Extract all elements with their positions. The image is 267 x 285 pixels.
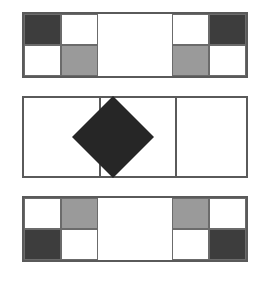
bottom-panel xyxy=(22,196,248,262)
cell-r1c5 xyxy=(209,229,246,260)
cell-r1c1 xyxy=(61,45,98,76)
cell-r0c0 xyxy=(24,198,61,229)
cell-r1c0 xyxy=(24,229,61,260)
cell-r0c1 xyxy=(61,14,98,45)
cell-r1c5 xyxy=(209,45,246,76)
cell-r1c4 xyxy=(172,45,209,76)
cell-r0c4 xyxy=(172,198,209,229)
center-diamond xyxy=(72,96,154,178)
cell-r1c0 xyxy=(24,45,61,76)
cell-r1c4 xyxy=(172,229,209,260)
column-separator-1 xyxy=(175,98,177,176)
top-panel xyxy=(22,12,248,78)
cell-r0c5 xyxy=(209,198,246,229)
pattern-figure xyxy=(0,0,267,285)
cell-r0c1 xyxy=(61,198,98,229)
cell-r0c5 xyxy=(209,14,246,45)
cell-r1c1 xyxy=(61,229,98,260)
cell-r0c0 xyxy=(24,14,61,45)
cell-r0c4 xyxy=(172,14,209,45)
middle-panel xyxy=(22,96,248,178)
